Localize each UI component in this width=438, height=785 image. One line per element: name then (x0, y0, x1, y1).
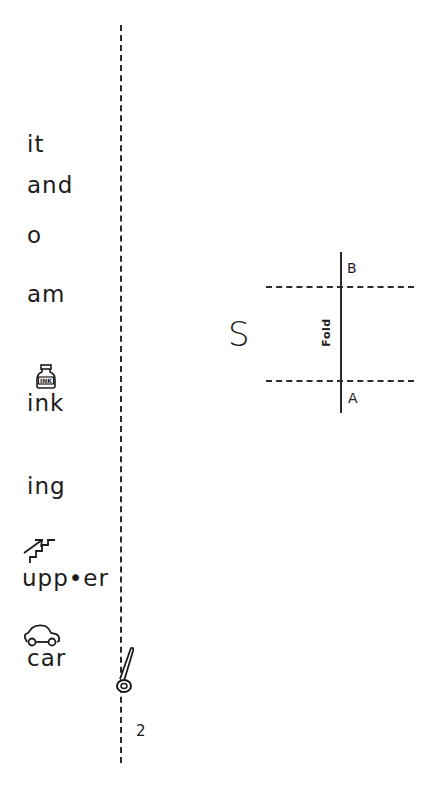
fold-top-dashed-line (266, 286, 414, 288)
page-number: 2 (136, 722, 146, 740)
marker-a: A (348, 390, 358, 406)
marker-b: B (347, 260, 357, 276)
letter-s: S (228, 314, 250, 354)
word-upper: upp•er (22, 567, 109, 590)
word-car: car (27, 647, 66, 670)
ink-bottle-icon: INK (35, 364, 57, 390)
fold-bottom-dashed-line (266, 380, 414, 382)
word-o: o (27, 224, 42, 247)
fold-label: Fold (320, 318, 333, 346)
stairs-up-icon (22, 537, 58, 565)
scissors-icon (114, 645, 136, 695)
word-ink: ink (27, 392, 64, 415)
word-ing: ing (27, 475, 66, 498)
word-and: and (27, 174, 73, 197)
word-am: am (27, 283, 66, 306)
word-it: it (27, 133, 44, 156)
svg-text:INK: INK (40, 377, 52, 384)
fold-vertical-line (340, 252, 342, 413)
